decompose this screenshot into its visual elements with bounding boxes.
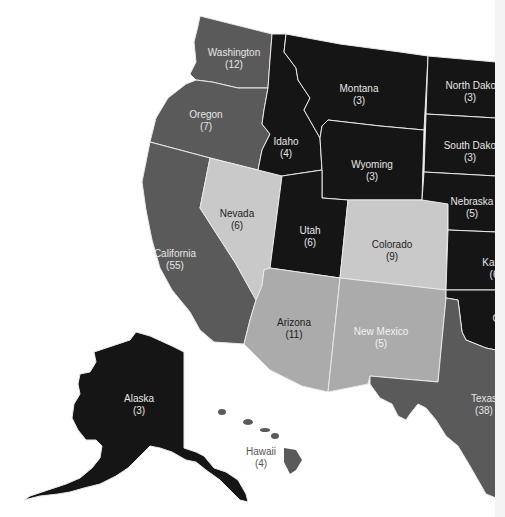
state-north-dakota[interactable] [426, 56, 496, 118]
label-hawaii: Hawaii (4) [246, 446, 276, 469]
state-wyoming[interactable] [320, 120, 424, 200]
state-name: Hawaii [246, 446, 276, 457]
state-colorado[interactable] [340, 200, 448, 290]
state-alaska[interactable] [24, 332, 248, 502]
state-votes: (4) [255, 458, 267, 469]
state-new-mexico[interactable] [328, 278, 446, 392]
state-south-dakota[interactable] [424, 114, 496, 176]
state-kansas[interactable] [446, 230, 496, 290]
right-edge-mask [495, 0, 505, 517]
western-us-electoral-map: Washington (12) Oregon (7) California (5… [0, 0, 505, 517]
state-hawaii[interactable] [218, 409, 302, 474]
state-washington[interactable] [190, 16, 272, 88]
